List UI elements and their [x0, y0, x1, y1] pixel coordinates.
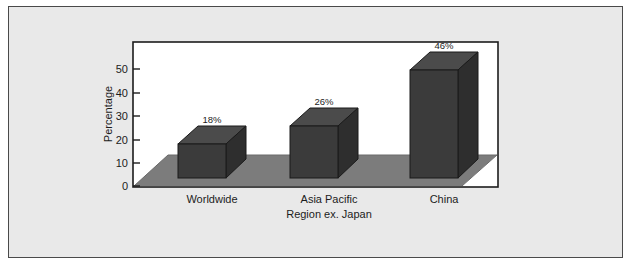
y-tick-label-0: 0 — [122, 180, 128, 192]
y-tick-label-20: 20 — [116, 134, 128, 146]
y-tick-label-40: 40 — [116, 87, 128, 99]
data-label-asia-pacific: 26% — [314, 96, 334, 107]
category-label-worldwide: Worldwide — [186, 193, 237, 205]
chart-figure: 50 40 30 20 10 0 Percentage 18% 26% 46% … — [0, 0, 633, 267]
y-tick-label-50: 50 — [116, 63, 128, 75]
category-label-china: China — [430, 193, 460, 205]
data-label-worldwide: 18% — [202, 114, 222, 125]
y-tick-label-30: 30 — [116, 110, 128, 122]
x-axis-labels: Worldwide Asia Pacific Region ex. Japan … — [186, 193, 459, 220]
bar-front-face — [178, 144, 226, 178]
bar-front-face — [290, 126, 338, 178]
bar-side-face — [458, 52, 478, 178]
category-label-asia-pacific: Asia Pacific — [301, 193, 358, 205]
data-label-china: 46% — [434, 40, 454, 51]
y-axis-title: Percentage — [102, 86, 114, 142]
bar-front-face — [410, 70, 458, 178]
bar-china[interactable] — [410, 52, 478, 178]
bar-asia-pacific[interactable] — [290, 108, 358, 178]
y-tick-label-10: 10 — [116, 157, 128, 169]
bar-chart-svg: 50 40 30 20 10 0 Percentage 18% 26% 46% … — [0, 0, 633, 267]
category-label-asia-pacific-line2: Region ex. Japan — [286, 208, 372, 220]
